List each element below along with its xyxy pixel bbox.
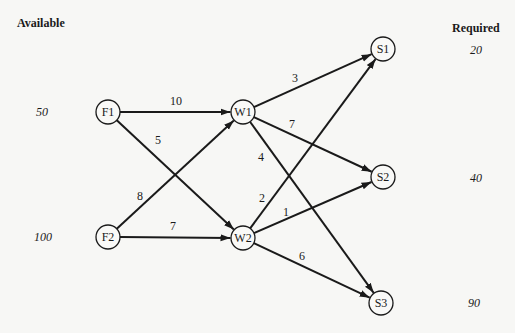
node-f2: F2	[96, 225, 120, 249]
edge-cost-label: 2	[259, 191, 265, 205]
node-f1: F1	[96, 100, 120, 124]
edge-cost-label: 1	[283, 205, 289, 219]
node-label: S1	[377, 42, 390, 56]
edge-f2-w2	[120, 237, 231, 238]
edge-cost-label: 6	[299, 249, 305, 263]
node-s1: S1	[371, 37, 395, 61]
network-diagram: 10587374216 F1F2W1W2S1S2S3	[0, 0, 515, 333]
node-label: S2	[377, 170, 390, 184]
node-w1: W1	[231, 100, 255, 124]
node-label: W1	[234, 105, 251, 119]
node-s3: S3	[369, 291, 393, 315]
edge-cost-label: 10	[170, 94, 182, 108]
edge-cost-label: 5	[155, 133, 161, 147]
node-label: F2	[102, 230, 115, 244]
edge-w2-s2	[254, 182, 372, 233]
edge-cost-label: 4	[258, 150, 264, 164]
edge-cost-label: 8	[137, 189, 143, 203]
node-s2: S2	[371, 165, 395, 189]
edge-cost-label: 3	[292, 71, 298, 85]
edge-cost-label: 7	[289, 117, 295, 131]
edge-w2-s3	[254, 243, 370, 298]
node-label: F1	[102, 105, 115, 119]
node-label: W2	[234, 231, 251, 245]
edge-cost-label: 7	[170, 219, 176, 233]
node-w2: W2	[231, 226, 255, 250]
edge-w2-s1	[250, 59, 375, 228]
node-label: S3	[375, 296, 388, 310]
edge-w1-s1	[254, 54, 372, 107]
